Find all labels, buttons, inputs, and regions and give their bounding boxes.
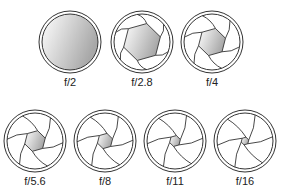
f-stop-label: f/2.8	[107, 76, 177, 88]
aperture-item: f/11	[140, 108, 210, 186]
f-stop-label: f/4	[177, 76, 247, 88]
aperture-item: f/2	[35, 9, 105, 99]
f-stop-label: f/11	[140, 175, 210, 186]
aperture-item: f/4	[177, 9, 247, 99]
aperture-item: f/16	[210, 108, 280, 186]
aperture-item: f/5.6	[0, 108, 70, 186]
aperture-item: f/2.8	[107, 9, 177, 99]
f-stop-label: f/5.6	[0, 175, 70, 186]
f-stop-label: f/8	[70, 175, 140, 186]
aperture-opening	[241, 137, 249, 145]
aperture-icon	[37, 9, 103, 75]
aperture-icon	[212, 108, 278, 174]
aperture-icon	[179, 9, 245, 75]
aperture-icon	[72, 108, 138, 174]
f-stop-label: f/16	[210, 175, 280, 186]
f-stop-label: f/2	[35, 76, 105, 88]
aperture-item: f/8	[70, 108, 140, 186]
aperture-icon	[142, 108, 208, 174]
inner-ring	[42, 14, 98, 70]
aperture-icon	[2, 108, 68, 174]
aperture-icon	[109, 9, 175, 75]
